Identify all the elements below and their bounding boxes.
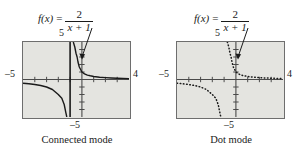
fraction: 2 x + 1 bbox=[221, 9, 248, 33]
formula-label-dot: f(x) = 2 x + 1 bbox=[194, 9, 306, 37]
fraction: 2 x + 1 bbox=[65, 9, 92, 33]
calculator-screen-connected bbox=[22, 41, 131, 119]
fraction-denominator: x + 1 bbox=[221, 22, 248, 34]
panel-dot-mode: f(x) = 2 x + 1 5 –5 4 –5 bbox=[154, 0, 308, 155]
curve-left-branch bbox=[23, 83, 67, 117]
axis-label-top-5: 5 bbox=[215, 28, 220, 38]
calculator-screen-dot bbox=[176, 41, 285, 119]
axis-label-bottom-minus5: –5 bbox=[224, 120, 234, 130]
fraction-numerator: 2 bbox=[72, 9, 86, 21]
axis-label-left-minus5: –5 bbox=[159, 69, 169, 79]
equals-sign: = bbox=[56, 13, 62, 24]
formula-label-connected: f(x) = 2 x + 1 bbox=[38, 9, 150, 37]
function-name: f(x) bbox=[38, 13, 53, 24]
plot-svg-connected bbox=[23, 42, 129, 117]
axis-label-bottom-minus5: –5 bbox=[70, 120, 80, 130]
axis-label-right-4: 4 bbox=[287, 69, 292, 79]
axis-label-left-minus5: –5 bbox=[5, 69, 15, 79]
panel-connected-mode: f(x) = 2 x + 1 5 –5 4 –5 bbox=[0, 0, 154, 155]
equals-sign: = bbox=[212, 13, 218, 24]
axis-label-top-5: 5 bbox=[59, 28, 64, 38]
function-name: f(x) bbox=[194, 13, 209, 24]
curve-left-branch bbox=[177, 83, 221, 117]
fraction-numerator: 2 bbox=[228, 9, 242, 21]
axis-label-right-4: 4 bbox=[133, 69, 138, 79]
figure-container: f(x) = 2 x + 1 5 –5 4 –5 bbox=[0, 0, 308, 155]
fraction-denominator: x + 1 bbox=[65, 22, 92, 34]
caption-dot-mode: Dot mode bbox=[154, 134, 308, 146]
caption-connected-mode: Connected mode bbox=[0, 134, 154, 146]
plot-svg-dot bbox=[177, 42, 283, 117]
